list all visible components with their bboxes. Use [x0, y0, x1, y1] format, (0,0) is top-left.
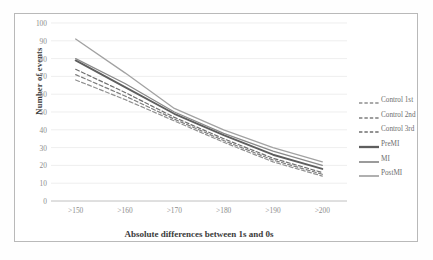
- legend-label: PostMI: [381, 169, 402, 177]
- x-tick-label: >190: [265, 206, 280, 215]
- y-tick-label: 80: [40, 54, 47, 63]
- legend-item-control-1st[interactable]: Control 1st: [359, 93, 433, 108]
- y-tick-label: 100: [36, 19, 47, 28]
- gridlines: [51, 23, 347, 201]
- legend-label: Control 1st: [381, 96, 413, 104]
- y-tick-label: 90: [40, 36, 47, 45]
- chart-frame: Number of events 1009080706050403020100 …: [14, 13, 418, 242]
- line-chart-svg: [51, 23, 347, 201]
- y-tick-label: 40: [40, 125, 47, 134]
- y-tick-label: 0: [43, 197, 47, 206]
- legend-label: Control 2nd: [381, 111, 416, 119]
- y-tick-label: 30: [40, 143, 47, 152]
- legend-label: Control 3rd: [381, 125, 414, 133]
- x-axis-title: Absolute differences between 1s and 0s: [51, 229, 347, 239]
- legend-item-postmi[interactable]: PostMI: [359, 166, 433, 181]
- y-tick-label: 20: [40, 161, 47, 170]
- y-tick-label: 70: [40, 72, 47, 81]
- y-tick-label: 10: [40, 179, 47, 188]
- x-tick-label: >150: [68, 206, 83, 215]
- legend-item-control-3rd[interactable]: Control 3rd: [359, 122, 433, 137]
- legend-item-premi[interactable]: PreMI: [359, 137, 433, 152]
- y-tick-label: 50: [40, 108, 47, 117]
- chart-legend: Control 1stControl 2ndControl 3rdPreMIMI…: [359, 93, 433, 181]
- x-tick-label: >180: [216, 206, 231, 215]
- data-series-group: [76, 39, 323, 176]
- series-line-postmi: [76, 39, 323, 162]
- legend-label: PreMI: [381, 140, 399, 148]
- x-tick-label: >170: [167, 206, 182, 215]
- plot-area: 1009080706050403020100 >150>160>170>180>…: [51, 23, 347, 201]
- x-tick-label: >160: [117, 206, 132, 215]
- y-tick-label: 60: [40, 90, 47, 99]
- legend-item-control-2nd[interactable]: Control 2nd: [359, 108, 433, 123]
- figure-container: Number of events 1009080706050403020100 …: [0, 0, 433, 260]
- legend-item-mi[interactable]: MI: [359, 151, 433, 166]
- series-line-control-3rd: [76, 69, 323, 172]
- legend-label: MI: [381, 155, 390, 163]
- x-tick-label: >200: [315, 206, 330, 215]
